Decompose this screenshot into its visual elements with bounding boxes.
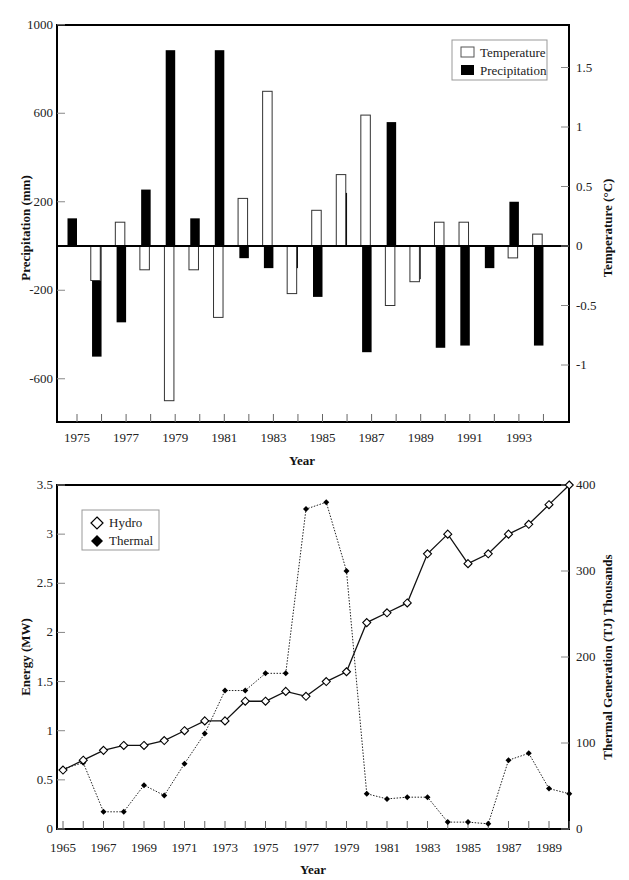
temperature-bar xyxy=(238,198,248,246)
x-tick-label: 1991 xyxy=(457,430,483,445)
y-tick-label: 0 xyxy=(47,821,54,836)
precipitation-bar xyxy=(485,246,495,268)
x-tick-label: 1969 xyxy=(131,840,157,855)
y2-tick-label: 200 xyxy=(576,649,596,664)
x-tick-label: 1977 xyxy=(293,840,320,855)
y-tick-label: 200 xyxy=(34,194,54,209)
y2-tick-label: 1 xyxy=(576,119,583,134)
x-tick-label: 1975 xyxy=(253,840,279,855)
temperature-bar xyxy=(508,246,518,258)
x-tick-label: 1989 xyxy=(536,840,562,855)
energy-generation-chart: 3.532.521.510.50 4003002001000 196519671… xyxy=(18,477,615,877)
bottom-legend: Hydro Thermal xyxy=(82,510,159,550)
y2-tick-label: 300 xyxy=(576,563,596,578)
temperature-bar xyxy=(287,246,297,294)
y-tick-label: 3.5 xyxy=(37,477,53,492)
bottom-y-axis-title: Energy (MW) xyxy=(18,618,33,696)
temperature-bar xyxy=(189,246,199,270)
y2-tick-label: -1 xyxy=(576,357,587,372)
y-tick-label: 2.5 xyxy=(37,575,53,590)
y2-tick-label: 0 xyxy=(576,821,583,836)
precipitation-bar xyxy=(117,246,127,322)
x-tick-label: 1965 xyxy=(50,840,76,855)
y-tick-label: 600 xyxy=(34,105,54,120)
precipitation-bar xyxy=(387,122,397,246)
temperature-bar xyxy=(164,246,174,401)
precipitation-bar xyxy=(141,190,151,246)
y-tick-label: 0.5 xyxy=(37,772,53,787)
temperature-bar xyxy=(263,91,273,246)
legend-temperature: Temperature xyxy=(480,45,546,60)
precipitation-bar xyxy=(313,246,323,297)
x-tick-label: 1977 xyxy=(113,430,140,445)
x-tick-label: 1983 xyxy=(260,430,286,445)
precipitation-bar xyxy=(460,246,470,346)
y-tick-label: 1000 xyxy=(27,17,53,32)
precipitation-bar xyxy=(68,218,78,246)
y2-tick-label: -0.5 xyxy=(576,298,597,313)
x-tick-label: 1975 xyxy=(64,430,90,445)
y2-tick-label: 0 xyxy=(576,238,583,253)
y-tick-label: 3 xyxy=(47,526,54,541)
temperature-bar xyxy=(385,246,395,306)
temperature-bar xyxy=(140,246,150,270)
precipitation-bar xyxy=(534,246,544,346)
x-tick-label: 1967 xyxy=(91,840,118,855)
bottom-y2-axis-title: Thermal Generation (TJ) Thousands xyxy=(600,554,615,759)
temperature-bar xyxy=(434,222,444,246)
precipitation-bar xyxy=(362,246,372,352)
precipitation-bar xyxy=(239,246,249,258)
precipitation-bar xyxy=(215,50,225,246)
temperature-bar xyxy=(336,175,346,246)
y2-tick-label: 400 xyxy=(576,477,596,492)
x-tick-label: 1981 xyxy=(374,840,400,855)
temperature-bar xyxy=(361,115,371,246)
legend-hydro: Hydro xyxy=(109,515,142,530)
y-tick-label: -600 xyxy=(29,371,53,386)
y2-tick-label: 100 xyxy=(576,735,596,750)
x-tick-label: 1983 xyxy=(415,840,441,855)
top-legend: Temperature Precipitation xyxy=(452,40,547,80)
precipitation-bar xyxy=(509,202,519,246)
temperature-bar xyxy=(459,222,469,246)
temperature-bar xyxy=(533,234,543,246)
x-tick-label: 1987 xyxy=(359,430,386,445)
bottom-x-axis-title: Year xyxy=(300,862,326,877)
legend-thermal: Thermal xyxy=(109,533,153,548)
x-tick-label: 1985 xyxy=(310,430,336,445)
top-y2-axis-title: Temperature (°C) xyxy=(600,179,615,278)
precipitation-bar xyxy=(436,246,446,348)
x-tick-label: 1979 xyxy=(334,840,360,855)
y-tick-label: 1 xyxy=(47,723,54,738)
top-y-axis-title: Precipitation (mm) xyxy=(18,175,33,281)
x-tick-label: 1993 xyxy=(506,430,532,445)
x-tick-label: 1979 xyxy=(162,430,188,445)
precipitation-swatch xyxy=(461,65,474,75)
temperature-bar xyxy=(115,222,125,246)
y-tick-label: -200 xyxy=(29,282,53,297)
temperature-bar xyxy=(312,210,322,246)
x-tick-label: 1989 xyxy=(408,430,434,445)
legend-precipitation: Precipitation xyxy=(480,63,547,78)
top-x-axis-title: Year xyxy=(289,453,315,468)
precipitation-bar xyxy=(264,246,274,268)
precipitation-bar xyxy=(166,50,176,246)
y2-tick-label: 1.5 xyxy=(576,60,592,75)
temperature-swatch xyxy=(461,47,474,57)
temperature-bar xyxy=(214,246,224,317)
temperature-bar xyxy=(91,246,101,281)
x-tick-label: 1971 xyxy=(172,840,198,855)
y2-tick-label: 0.5 xyxy=(576,179,592,194)
figure: 1000600200-200-600 1.510.50-0.5-1 197519… xyxy=(0,0,629,880)
temperature-bar xyxy=(410,246,420,282)
precipitation-bar xyxy=(190,218,200,246)
x-tick-label: 1985 xyxy=(455,840,481,855)
x-tick-label: 1987 xyxy=(496,840,523,855)
x-tick-label: 1981 xyxy=(211,430,237,445)
precipitation-temperature-chart: 1000600200-200-600 1.510.50-0.5-1 197519… xyxy=(18,17,615,468)
y-tick-label: 2 xyxy=(47,624,54,639)
y-tick-label: 1.5 xyxy=(37,674,53,689)
x-tick-label: 1973 xyxy=(212,840,238,855)
